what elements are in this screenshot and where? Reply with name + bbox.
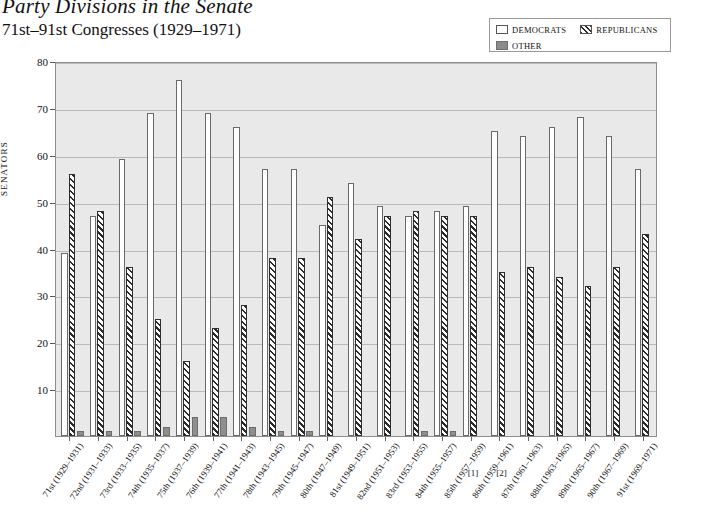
legend-row-2: OTHER xyxy=(496,39,664,52)
bar-other xyxy=(450,431,457,436)
y-tick-mark xyxy=(50,156,55,157)
x-tick-mark xyxy=(385,437,386,441)
bar-democrats xyxy=(434,211,441,436)
bar-republicans xyxy=(470,216,477,436)
bar-group xyxy=(577,63,601,436)
y-tick-label: 70 xyxy=(16,103,48,115)
legend-label-republicans: REPUBLICANS xyxy=(596,25,657,35)
bar-republicans xyxy=(355,239,362,436)
y-tick-mark xyxy=(50,250,55,251)
bar-republicans xyxy=(327,197,334,436)
bar-republicans xyxy=(69,174,76,437)
bar-group xyxy=(635,63,659,436)
bar-group xyxy=(205,63,229,436)
y-tick-mark xyxy=(50,62,55,63)
bar-republicans xyxy=(384,216,391,436)
bar-group xyxy=(291,63,315,436)
bar-democrats xyxy=(520,136,527,436)
bar-republicans xyxy=(183,361,190,436)
bar-other xyxy=(306,431,313,436)
bar-republicans xyxy=(527,267,534,436)
bar-group xyxy=(377,63,401,436)
bar-group xyxy=(319,63,343,436)
bar-democrats xyxy=(635,169,642,436)
bar-democrats xyxy=(147,113,154,436)
x-tick-mark xyxy=(327,437,328,441)
bar-republicans xyxy=(241,305,248,436)
bar-democrats xyxy=(233,127,240,436)
bar-democrats xyxy=(606,136,613,436)
bar-group xyxy=(549,63,573,436)
bar-democrats xyxy=(348,183,355,436)
y-axis-label: SENATORS xyxy=(0,141,9,196)
footnote-marker: [1] xyxy=(468,468,479,478)
bar-group xyxy=(233,63,257,436)
legend-row-1: DEMOCRATS REPUBLICANS xyxy=(496,23,664,36)
bar-democrats xyxy=(176,80,183,436)
y-tick-mark xyxy=(50,109,55,110)
bar-republicans xyxy=(269,258,276,436)
bar-democrats xyxy=(491,131,498,436)
bar-other xyxy=(192,417,199,436)
bar-democrats xyxy=(577,117,584,436)
bar-other xyxy=(106,431,113,436)
page-title: Party Divisions in the Senate xyxy=(2,0,253,19)
bar-republicans xyxy=(413,211,420,436)
y-tick-label: 40 xyxy=(16,244,48,256)
legend-item-republicans: REPUBLICANS xyxy=(580,25,657,35)
legend-label-other: OTHER xyxy=(512,41,542,51)
bar-group xyxy=(61,63,85,436)
y-tick-label: 30 xyxy=(16,290,48,302)
bar-democrats xyxy=(463,206,470,436)
y-tick-mark xyxy=(50,390,55,391)
bar-democrats xyxy=(205,113,212,436)
bar-democrats xyxy=(119,159,126,436)
bar-republicans xyxy=(97,211,104,436)
bar-other xyxy=(278,431,285,436)
y-tick-label: 80 xyxy=(16,56,48,68)
bar-republicans xyxy=(585,286,592,436)
legend-label-democrats: DEMOCRATS xyxy=(512,25,566,35)
bar-democrats xyxy=(319,225,326,436)
bar-other xyxy=(77,431,84,436)
bar-republicans xyxy=(613,267,620,436)
x-tick-mark xyxy=(270,437,271,441)
page-subtitle: 71st–91st Congresses (1929–1971) xyxy=(2,20,241,40)
other-swatch-icon xyxy=(496,41,508,50)
bar-other xyxy=(421,431,428,436)
bar-republicans xyxy=(642,234,649,436)
bar-democrats xyxy=(61,253,68,436)
bar-republicans xyxy=(155,319,162,436)
bar-democrats xyxy=(405,216,412,436)
y-tick-mark xyxy=(50,343,55,344)
bar-group xyxy=(405,63,429,436)
bar-group xyxy=(434,63,458,436)
x-tick-mark xyxy=(585,437,586,441)
bar-democrats xyxy=(262,169,269,436)
legend-item-democrats: DEMOCRATS xyxy=(496,25,566,35)
x-tick-mark xyxy=(557,437,558,441)
y-tick-label: 20 xyxy=(16,337,48,349)
chart-legend: DEMOCRATS REPUBLICANS OTHER xyxy=(489,18,671,52)
x-tick-mark xyxy=(528,437,529,441)
x-tick-mark xyxy=(614,437,615,441)
democrat-swatch-icon xyxy=(496,25,508,34)
x-tick-mark xyxy=(299,437,300,441)
x-tick-mark xyxy=(643,437,644,441)
x-tick-mark xyxy=(69,437,70,441)
x-tick-mark xyxy=(442,437,443,441)
x-tick-mark xyxy=(127,437,128,441)
bar-republicans xyxy=(126,267,133,436)
x-tick-mark xyxy=(471,437,472,441)
bar-other xyxy=(220,417,227,436)
bar-republicans xyxy=(212,328,219,436)
bar-democrats xyxy=(549,127,556,436)
x-tick-mark xyxy=(155,437,156,441)
x-tick-mark xyxy=(499,437,500,441)
x-tick-mark xyxy=(184,437,185,441)
y-tick-label: 50 xyxy=(16,197,48,209)
x-tick-mark xyxy=(213,437,214,441)
bar-republicans xyxy=(556,277,563,436)
bar-other xyxy=(163,427,170,436)
bar-group xyxy=(176,63,200,436)
